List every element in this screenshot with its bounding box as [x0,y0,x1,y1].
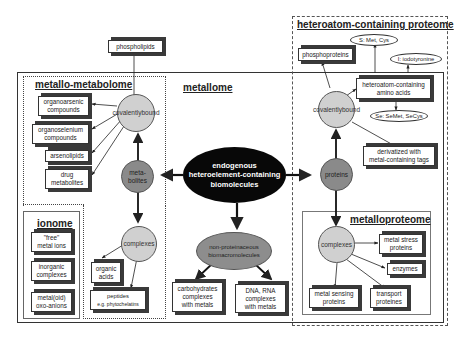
label: I: iodotyronine [398,56,434,62]
nonproteinaceous-node: non-proteinaceousbiomacromolecules [196,232,272,270]
label: organoselenium [38,126,83,134]
metabolites-covalently-bound-node: covalentlybound [117,94,155,132]
metallo-metabolome-title: metallo-metabolome [35,79,132,90]
metalloproteome-title: metalloproteome [350,214,431,225]
metaloid-oxoanions-box: metal(oid)oxo-anions [31,292,72,312]
organic-acids-box: organicacids [91,262,121,283]
label: amino acids [362,89,425,97]
proteins-node: proteins [320,158,353,191]
heteroatom-amino-acids-box: heteroatom-containingamino acids [356,78,431,99]
label: organoarsenic [44,98,84,106]
label: complexes [321,241,352,249]
label: inorganic [36,263,66,271]
phospholipids-label: phospholipids [116,43,155,51]
proteins-complexes-node: complexes [318,226,355,263]
label: arsenolipids [50,152,84,160]
metabolites-node: meta-bolites [121,160,154,193]
label: S: Met, Cys [359,37,389,43]
label: non-proteinaceous [208,243,260,251]
label: with metals [245,303,277,311]
center-line2: heteroelement-containing [189,170,281,180]
center-line3: biomolecules [189,180,281,190]
label: enzymes [392,265,417,273]
label: organic [96,265,117,273]
endogenous-biomolecules-node: endogenous heteroelement-containing biom… [183,147,286,203]
metal-stress-proteins-box: metal stressproteins [379,234,423,254]
transport-proteines-box: transportproteines [370,288,408,308]
label: peptides [97,292,139,300]
label: biomacromolecules [208,251,260,259]
label: complexes [245,295,277,303]
label: complexes [123,240,154,248]
label: proteines [376,298,402,306]
free-metal-ions-box: "free"metal ions [31,232,72,252]
label: carbohydrates [178,285,218,293]
label: bound [342,106,360,113]
carbohydrate-complexes-box: carbohydratescomplexeswith metals [172,282,223,312]
peptides-box: peptidese.g. phytochelatins [90,290,146,310]
label: oxo-anions [36,302,67,310]
enzymes-box: enzymes [387,263,423,275]
drug-metabolites-box: drugmetabolites [45,169,89,189]
label: metal-containing tags [369,156,429,164]
label: acids [96,273,117,281]
organoselenium-box: organoseleniumcompounds [32,124,89,144]
label: meta- [129,169,146,176]
label: bolites [128,177,147,184]
label: metal sensing [315,290,354,298]
phosphoproteins-box: phosphoproteins [298,48,353,61]
label: proteins [325,171,348,179]
label: complexes [178,293,218,301]
metabolites-complexes-node: complexes [121,226,157,262]
phospholipids-box: phospholipids [108,40,163,53]
proteins-covalently-bound-node: covalentlybound [318,91,355,128]
label: metabolites [51,179,83,187]
iodotyronine-oval: I: iodotyronine [390,53,442,65]
label: bound [141,109,159,116]
derivatized-tags-box: derivatized withmetal-containing tags [363,146,435,166]
label: covalently [313,106,342,113]
label: proteins [384,244,418,252]
label: e.g. phytochelatins [97,300,139,308]
label: transport [376,290,402,298]
label: metal stress [384,236,418,244]
inorganic-complexes-box: inorganiccomplexes [31,261,72,281]
label: with metals [178,301,218,309]
label: complexes [36,271,66,279]
label: "free" [37,234,66,242]
label: metal ions [37,242,66,250]
label: derivatized with [369,148,429,156]
center-line1: endogenous [189,161,281,171]
label: phosphoproteins [302,51,349,59]
se-semet-secys-oval: Se: SeMet, SeCys [370,110,428,122]
label: Se: SeMet, SeCys [375,113,422,119]
s-met-cys-oval: S: Met, Cys [350,34,398,46]
label: drug [51,171,83,179]
label: compounds [44,106,84,114]
metallome-title: metallome [183,82,232,93]
label: heteroatom-containing [362,81,425,89]
metallo-metabolome-frame-step [23,204,84,206]
arsenolipids-box: arsenolipids [45,150,89,162]
ionome-title: ionome [37,218,73,229]
label: compounds [38,134,83,142]
label: covalently [113,109,142,116]
label: metal(oid) [36,294,67,302]
heteroatom-proteome-title: heteroatom-containing proteome [297,19,454,30]
metal-sensing-proteins-box: metal sensingproteins [309,288,359,308]
dna-rna-complexes-box: DNA, RNAcomplexeswith metals [235,284,286,313]
organoarsenic-box: organoarseniccompounds [38,96,89,116]
label: DNA, RNA [245,287,277,295]
label: proteins [315,298,354,306]
